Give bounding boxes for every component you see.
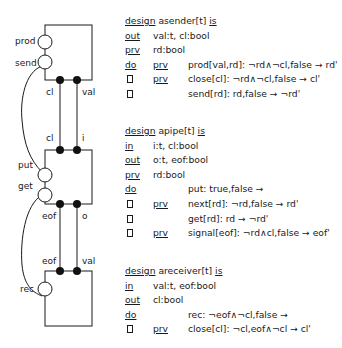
choice-box-icon [127,229,133,237]
prv-modifier: prv [153,58,168,73]
val-label-top: val [82,87,95,97]
eof-out-port-icon [56,200,64,208]
choice-box-icon [127,215,133,223]
send-port-icon [38,55,52,69]
do-keyword: do [125,182,136,197]
design-areceiver: design areceiver[t] is inval:t, eof:bool… [125,264,222,337]
action: prod[val,rd]: ¬rd∧¬cl,false → rd' [188,58,338,73]
is-keyword: is [198,125,205,136]
action: rec: ¬eof∧¬cl,false → [188,308,288,323]
get-label: get [18,181,33,191]
design-header: design asender[t] is [125,14,217,29]
get-rec-connector [22,195,42,296]
prv-modifier: prv [153,72,168,87]
action: put: true,false → [188,182,264,197]
do-keyword: do [125,308,136,323]
declaration: cl:bool [153,293,183,308]
design-asender: design asender[t] is outval:t, cl:bool p… [125,14,217,102]
asender-component [45,25,92,80]
architecture-diagram: prod send cl val cl i put get eof o eof … [0,0,120,348]
get-port-icon [38,188,52,202]
is-keyword: is [209,15,216,26]
choice-box-icon [127,200,133,208]
prv-keyword: prv [125,43,140,58]
prod-label: prod [15,36,35,46]
action: close[cl]: ¬rd∧¬cl,false → cl' [188,72,320,87]
o-label: o [82,211,88,221]
in-keyword: in [125,139,133,154]
design-keyword: design [125,15,155,26]
design-name: asender[t] [155,15,209,26]
choice-box-icon [127,90,133,98]
design-name: areceiver[t] [155,265,215,276]
eof-label-pipe: eof [42,211,57,221]
areceiver-component [45,271,92,326]
declaration: o:t, eof:bool [153,153,208,168]
action: signal[eof]: ¬rd∧cl,false → eof' [188,226,330,241]
rec-label: rec [20,284,34,294]
out-keyword: out [125,29,140,44]
action: send[rd]: rd,false → ¬rd' [188,87,300,102]
design-header: design apipe[t] is [125,124,205,139]
put-port-icon [38,168,52,182]
declaration: val:t, eof:bool [153,279,216,294]
design-keyword: design [125,125,155,136]
prv-modifier: prv [153,226,168,241]
is-keyword: is [215,265,222,276]
cl-out-port-icon [56,76,64,84]
i-in-port-icon [73,146,81,154]
val-label-receiver: val [82,256,95,266]
out-keyword: out [125,153,140,168]
action: close[cl]: ¬cl,eof∧¬cl → cl' [188,322,311,337]
prv-modifier: prv [153,322,168,337]
val-out-port-icon [73,76,81,84]
i-label: i [82,133,85,143]
in-keyword: in [125,279,133,294]
send-put-connector [22,66,42,172]
cl-label-pipe: cl [46,133,53,143]
eof-label-receiver: eof [42,256,57,266]
prod-port-icon [38,35,52,49]
action: get[rd]: rd → ¬rd' [188,212,268,227]
design-keyword: design [125,265,155,276]
prv-modifier: prv [153,197,168,212]
choice-box-icon [127,75,133,83]
prv-keyword: prv [125,168,140,183]
declaration: rd:bool [153,168,185,183]
send-label: send [15,58,37,68]
cl-in-port-icon [56,146,64,154]
eof-in-port-icon [56,267,64,275]
val-in-port-icon [73,267,81,275]
design-apipe: design apipe[t] is ini:t, cl:bool outo:t… [125,124,205,241]
o-out-port-icon [73,200,81,208]
cl-label-top: cl [46,87,53,97]
do-keyword: do [125,58,136,73]
declaration: val:t, cl:bool [153,29,209,44]
put-label: put [18,160,33,170]
choice-box-icon [127,325,133,333]
declaration: i:t, cl:bool [153,139,198,154]
declaration: rd:bool [153,43,185,58]
out-keyword: out [125,293,140,308]
rec-port-icon [38,282,52,296]
design-header: design areceiver[t] is [125,264,222,279]
action: next[rd]: ¬rd,false → rd' [188,197,298,212]
design-name: apipe[t] [155,125,197,136]
